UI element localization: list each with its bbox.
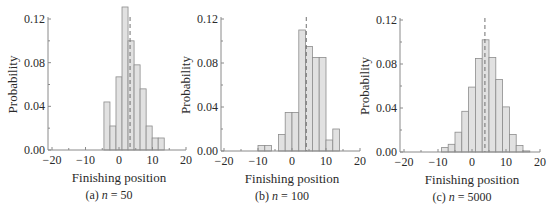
y-tick-label: 0.12: [24, 12, 45, 26]
x-tick-label: 20: [180, 153, 192, 167]
x-tick-label: 0: [116, 153, 122, 167]
histogram-bar: [104, 102, 110, 150]
panel-caption: (b) n = 100: [255, 189, 309, 203]
histogram-bar: [134, 65, 140, 150]
histogram-bar: [489, 57, 496, 152]
histogram-bar: [455, 132, 462, 152]
y-tick-label: 0.08: [197, 56, 218, 70]
histogram-bar: [441, 148, 448, 152]
x-tick-label: 0: [289, 154, 295, 168]
histogram-bar: [475, 59, 482, 153]
histogram-bars: [258, 30, 340, 151]
panel-a-n50: 0.000.040.080.12−20−1001020Finishing pos…: [5, 7, 192, 202]
panel-caption: (a) n = 50: [85, 188, 132, 202]
panel-b-n100: 0.000.040.080.12−20−1001020Finishing pos…: [178, 12, 366, 203]
histogram-bars: [441, 40, 529, 152]
x-tick-label: −10: [76, 153, 95, 167]
x-axis-title: Finishing position: [425, 172, 520, 187]
x-tick-label: 10: [320, 154, 332, 168]
x-tick-label: −10: [249, 154, 268, 168]
y-axis-title: Probability: [357, 57, 372, 115]
histogram-bar: [312, 58, 319, 152]
histogram-bar: [503, 107, 510, 152]
x-tick-label: 0: [469, 155, 475, 169]
histogram-bar: [285, 113, 292, 152]
histogram-bars: [104, 7, 164, 150]
x-tick-label: −20: [215, 154, 234, 168]
histogram-bar: [462, 111, 469, 152]
x-axis-title: Finishing position: [245, 171, 340, 186]
histogram-bar: [146, 126, 152, 150]
histogram-bar: [448, 144, 455, 152]
x-tick-label: 20: [354, 154, 366, 168]
y-tick-label: 0.08: [24, 56, 45, 70]
histogram-bar: [509, 134, 516, 152]
x-tick-label: −10: [429, 155, 448, 169]
y-axis-title: Probability: [178, 56, 193, 114]
x-axis-title: Finishing position: [72, 170, 167, 185]
histogram-bar: [333, 129, 340, 151]
histogram-bar: [265, 146, 272, 152]
x-tick-label: −20: [395, 155, 414, 169]
y-axis-title: Probability: [5, 55, 20, 113]
histogram-bar: [482, 40, 489, 152]
histogram-bar: [122, 7, 128, 150]
panel-caption: (c) n = 5000: [432, 190, 491, 204]
histogram-bar: [299, 30, 306, 151]
histogram-bar: [152, 138, 158, 150]
histogram-bar: [128, 41, 134, 150]
y-tick-label: 0.12: [197, 12, 218, 26]
x-tick-label: 20: [534, 155, 546, 169]
histogram-bar: [278, 135, 285, 152]
histogram-bar: [258, 146, 265, 152]
histogram-bar: [110, 126, 116, 150]
y-tick-label: 0.12: [376, 13, 397, 27]
x-tick-label: 10: [500, 155, 512, 169]
histogram-bar: [158, 138, 164, 150]
y-tick-label: 0.04: [24, 99, 45, 113]
histogram-figure: 0.000.040.080.12−20−1001020Finishing pos…: [0, 0, 555, 206]
panel-c-n5000: 0.000.040.080.12−20−1001020Finishing pos…: [357, 13, 546, 204]
histogram-bar: [292, 113, 299, 152]
histogram-bar: [140, 89, 146, 150]
histogram-bar: [516, 145, 523, 152]
y-tick-label: 0.04: [376, 101, 397, 115]
histogram-bar: [116, 77, 122, 150]
histogram-bar: [326, 140, 333, 151]
x-tick-label: 10: [147, 153, 159, 167]
histogram-bar: [496, 79, 503, 152]
y-tick-label: 0.04: [197, 100, 218, 114]
y-tick-label: 0.08: [376, 57, 397, 71]
histogram-bar: [319, 58, 326, 152]
histogram-bar: [469, 87, 476, 152]
x-tick-label: −20: [43, 153, 62, 167]
